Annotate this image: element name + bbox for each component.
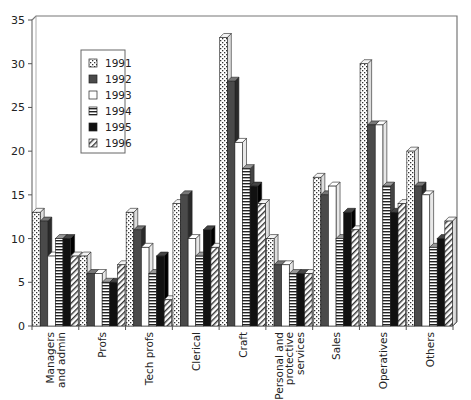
bar-group [173,191,223,326]
y-tick-label: 5 [18,276,25,289]
legend-label: 1991 [105,57,132,69]
legend-item: 1992 [89,73,132,85]
legend-label: 1992 [105,73,132,85]
x-axis: Managersand adminProfsTech profsClerical… [32,326,453,400]
legend-swatch-icon [89,75,97,83]
legend-swatch-icon [89,139,97,147]
y-axis: 05101520253035 [11,14,32,333]
legend-label: 1996 [105,137,132,149]
bar-group [407,147,457,326]
x-tick-label: Others [424,332,436,367]
legend-item: 1994 [89,105,132,117]
legend-item: 1991 [89,57,132,69]
bar-chart: 05101520253035 Managersand adminProfsTec… [0,0,471,400]
bar [445,217,457,326]
y-tick-label: 25 [11,101,25,114]
x-tick-label: Profs [96,332,108,358]
legend-item: 1995 [89,121,132,133]
y-tick-label: 15 [11,189,25,202]
y-tick-label: 0 [18,320,25,333]
y-tick-label: 10 [11,233,25,246]
bar-group [360,60,410,326]
legend: 199119921993199419951996 [81,50,132,153]
x-tick-label: and admin [55,332,67,388]
legend-item: 1996 [89,137,132,149]
x-tick-label: Craft [237,332,249,358]
bar-group [313,173,363,326]
legend-swatch-icon [89,91,97,99]
x-tick-label: services [294,332,306,375]
x-tick-label: Clerical [190,332,202,371]
legend-label: 1993 [105,89,132,101]
legend-swatch-icon [89,107,97,115]
bar-group [266,235,316,326]
y-tick-label: 35 [11,14,25,27]
legend-swatch-icon [89,123,97,131]
bar-group [33,208,83,326]
y-tick-label: 20 [11,145,25,158]
bar-group [220,33,270,326]
legend-label: 1994 [105,105,132,117]
chart-canvas: 05101520253035 Managersand adminProfsTec… [0,0,471,400]
bar-group [126,208,176,326]
legend-label: 1995 [105,121,132,133]
bar-group [79,252,129,326]
x-tick-label: Operatives [377,332,389,389]
legend-item: 1993 [89,89,132,101]
x-tick-label: Tech profs [143,332,155,386]
legend-swatch-icon [89,59,97,67]
y-tick-label: 30 [11,58,25,71]
x-tick-label: Sales [330,332,342,360]
